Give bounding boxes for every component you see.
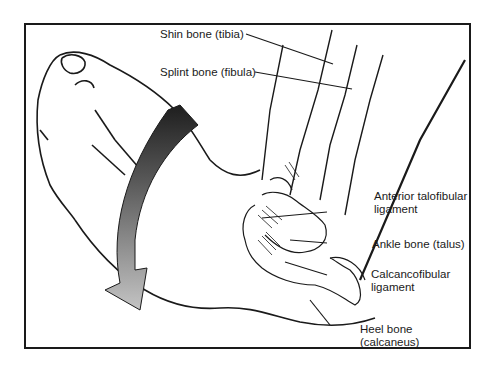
label-atfl-1: Anterior talofibular [374, 190, 467, 203]
label-calcaneus-1: Heel bone [360, 323, 412, 336]
ligament-hatching [258, 162, 299, 255]
label-fibula: Splint bone (fibula) [160, 66, 256, 79]
ankle-illustration [0, 0, 491, 368]
label-cfl-2: ligament [371, 281, 414, 294]
label-tibia: Shin bone (tibia) [160, 28, 244, 41]
label-talus: Ankle bone (talus) [372, 238, 465, 251]
label-atfl-2: ligament [374, 203, 417, 216]
label-cfl-1: Calcancofibular [371, 268, 450, 281]
label-calcaneus-2: (calcaneus) [360, 336, 419, 349]
foot-outline [37, 52, 375, 325]
inversion-arrow [105, 105, 198, 310]
